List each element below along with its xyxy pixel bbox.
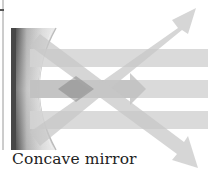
diagram-caption: Concave mirror: [12, 150, 137, 168]
diagram-canvas: [0, 0, 220, 174]
concave-mirror-diagram: Concave mirror: [0, 0, 220, 174]
